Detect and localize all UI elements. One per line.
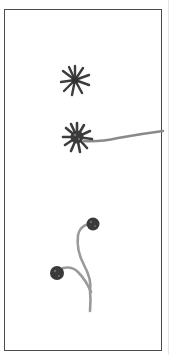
specimen-drawing — [0, 0, 171, 355]
star-cell-icon — [61, 66, 89, 95]
head-upper — [87, 218, 100, 231]
stalk-line — [84, 131, 163, 141]
branched-stalk-icon — [50, 218, 100, 312]
star-cell-stalked-icon — [63, 123, 92, 152]
head-lower — [50, 266, 64, 280]
